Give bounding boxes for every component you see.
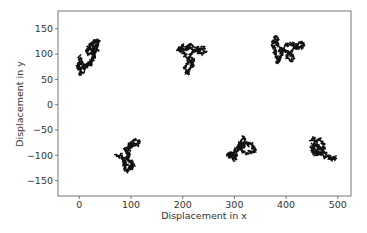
y-axis-label: Displacement in y bbox=[14, 61, 25, 147]
y-tick-label: 50 bbox=[41, 74, 53, 85]
x-tick-label: 100 bbox=[122, 199, 140, 210]
x-tick-label: 300 bbox=[225, 199, 243, 210]
x-axis-label: Displacement in x bbox=[161, 210, 247, 221]
x-tick-label: 400 bbox=[277, 199, 295, 210]
y-tick-label: 150 bbox=[35, 23, 53, 34]
y-tick-label: −100 bbox=[27, 150, 53, 161]
plot-frame bbox=[58, 11, 351, 196]
y-tick-label: 100 bbox=[35, 48, 53, 59]
x-axis-ticks: 0100200300400500 bbox=[76, 196, 347, 210]
y-tick-label: 0 bbox=[47, 99, 53, 110]
y-tick-label: −50 bbox=[33, 124, 53, 135]
x-tick-label: 200 bbox=[174, 199, 192, 210]
x-tick-label: 0 bbox=[76, 199, 82, 210]
y-axis-ticks: 150100500−50−100−150 bbox=[27, 23, 58, 186]
random-walk-chart: 0100200300400500 150100500−50−100−150 Di… bbox=[0, 0, 367, 233]
y-tick-label: −150 bbox=[27, 175, 53, 186]
x-tick-label: 500 bbox=[329, 199, 347, 210]
